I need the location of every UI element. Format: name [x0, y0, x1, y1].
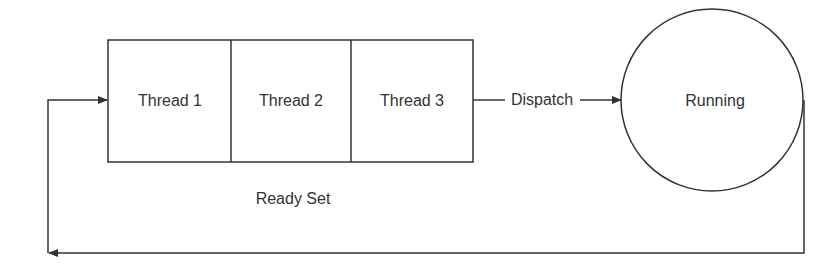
- running-label: Running: [685, 92, 745, 110]
- diagram-canvas: [0, 0, 840, 277]
- return-path-arrow: [49, 100, 804, 253]
- thread-2-label: Thread 2: [259, 92, 323, 110]
- thread-1-label: Thread 1: [138, 92, 202, 110]
- dispatch-label: Dispatch: [511, 91, 573, 109]
- thread-3-label: Thread 3: [380, 92, 444, 110]
- return-to-ready-arrow: [48, 100, 107, 253]
- ready-set-label: Ready Set: [256, 190, 331, 208]
